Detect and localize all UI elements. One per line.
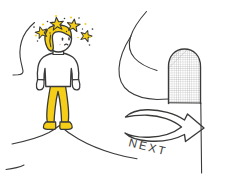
left-contour-curve (13, 23, 35, 76)
character-shoe-left (43, 122, 55, 129)
next-arrow (125, 110, 204, 142)
background-path-curve (119, 12, 169, 100)
ground-contour-lines (6, 126, 137, 170)
sketch-illustration: NEXT (0, 0, 228, 183)
next-label: NEXT (128, 136, 169, 157)
character-pants (47, 86, 69, 123)
star-3 (66, 18, 80, 32)
character-hand-right (72, 80, 80, 90)
character-cheek-left (59, 44, 60, 45)
star-4 (79, 29, 93, 43)
character-shoe-right (60, 122, 72, 129)
character-hand-left (36, 80, 44, 90)
illustration-canvas: NEXT (0, 0, 228, 183)
dazed-character (36, 25, 79, 129)
hatched-arch (169, 49, 201, 104)
next-label-group: NEXT (128, 136, 169, 157)
